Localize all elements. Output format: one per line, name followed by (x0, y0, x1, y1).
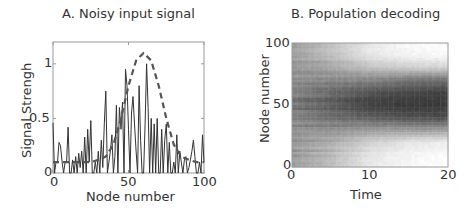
y-axis-label: Signal Strengh (19, 63, 34, 158)
xtick-10: 10 (361, 167, 378, 182)
xtick-0: 0 (50, 174, 58, 189)
underlying-signal-line (53, 53, 204, 162)
axes-frame (53, 42, 204, 173)
ytick-100: 100 (265, 35, 290, 50)
panel-b: B. Population decoding 100 50 0 0 10 20 … (237, 0, 475, 216)
noisy-signal-line (53, 64, 204, 173)
xtick-20: 20 (440, 167, 457, 182)
x-axis-label: Node number (86, 189, 175, 204)
xtick-50: 50 (120, 174, 137, 189)
xtick-0: 0 (287, 167, 295, 182)
xtick-100: 100 (192, 174, 217, 189)
heatmap-cells (292, 43, 448, 167)
ytick-50: 50 (273, 96, 290, 111)
ytick-1: 1 (44, 55, 52, 70)
panel-a: A. Noisy input signal 1 0.5 0 0 50 100 N… (0, 0, 237, 216)
x-axis-label: Time (350, 187, 382, 202)
y-axis-label: Node number (257, 54, 272, 143)
